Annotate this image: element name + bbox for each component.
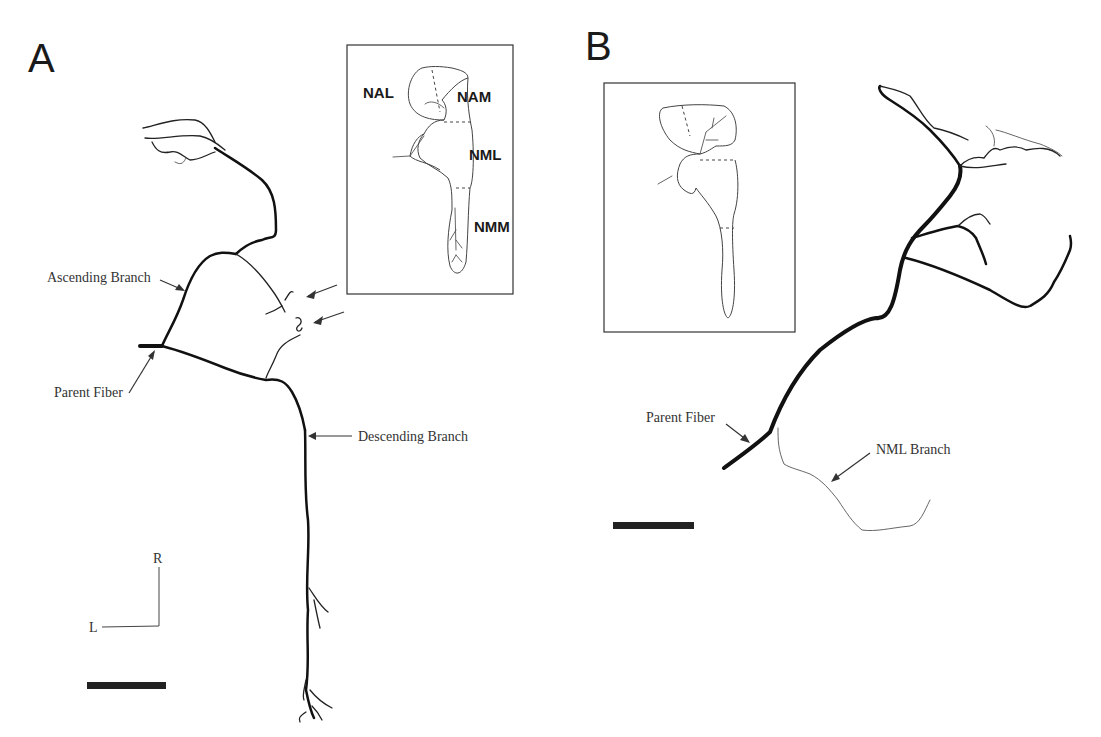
orientation-r: R bbox=[153, 551, 163, 566]
region-nmm: NMM bbox=[474, 218, 510, 235]
region-nal: NAL bbox=[363, 84, 394, 101]
scale-bar-b bbox=[613, 522, 694, 529]
panel-b: B Parent Fiber NML Branch bbox=[585, 24, 1071, 531]
descending-terminals bbox=[299, 588, 332, 722]
label-descending-branch: Descending Branch bbox=[358, 429, 468, 444]
panel-letter-b: B bbox=[585, 24, 612, 68]
label-parent-fiber-a: Parent Fiber bbox=[54, 385, 123, 400]
arbor-upper-b bbox=[879, 86, 960, 166]
panel-a: A Ascen bbox=[28, 36, 513, 722]
annotation-arrows bbox=[306, 285, 344, 325]
inset-a: NAL NAM NML NMM bbox=[347, 45, 513, 294]
inset-b bbox=[604, 83, 795, 332]
figure: A Ascen bbox=[0, 0, 1101, 737]
region-nam: NAM bbox=[457, 88, 491, 105]
axon-arbor-top bbox=[143, 120, 276, 254]
arbor-lower-b bbox=[906, 236, 1071, 307]
ascending-branch bbox=[162, 253, 236, 346]
descending-branch bbox=[162, 346, 305, 430]
label-parent-fiber-b: Parent Fiber bbox=[646, 410, 715, 425]
region-nml: NML bbox=[469, 146, 502, 163]
parent-fiber-b bbox=[724, 166, 961, 468]
orientation-l: L bbox=[89, 620, 98, 635]
scale-bar-a bbox=[87, 682, 166, 689]
label-nml-branch: NML Branch bbox=[876, 442, 951, 457]
label-ascending-branch: Ascending Branch bbox=[47, 270, 151, 285]
orientation-indicator: R L bbox=[89, 551, 163, 635]
panel-letter-a: A bbox=[28, 36, 55, 80]
